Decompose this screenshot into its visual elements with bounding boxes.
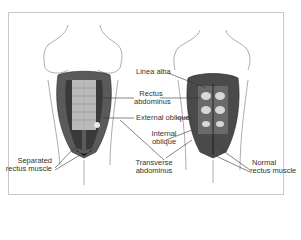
label-normal-rectus-line2: rectus muscle: [250, 167, 296, 176]
left-muscles: [57, 71, 112, 158]
label-internal-oblique-line2: oblique: [150, 138, 178, 147]
label-linea-alba: Linea alba: [136, 68, 171, 77]
label-rectus-abdominus-line2: abdominus: [134, 98, 168, 107]
label-external-oblique: External oblique: [136, 114, 190, 123]
label-separated-rectus-line2: rectus muscle: [4, 165, 52, 174]
label-transverse-abdominus-line2: abdominus: [134, 167, 174, 176]
right-muscles: [187, 74, 239, 159]
